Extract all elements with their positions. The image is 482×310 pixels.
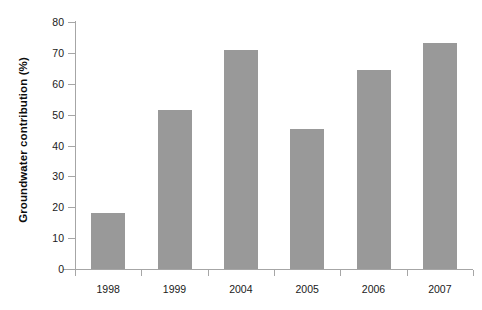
bar-chart: Groundwater contribution (%) 01020304050… <box>0 0 482 310</box>
x-axis-tick <box>407 270 408 276</box>
x-axis-tick <box>473 270 474 276</box>
x-axis-tick-label: 2004 <box>206 283 276 295</box>
y-axis-tick <box>68 269 75 270</box>
x-axis-tick-label: 2007 <box>405 283 475 295</box>
x-axis-tick-label: 2006 <box>339 283 409 295</box>
x-axis-tick <box>141 270 142 276</box>
x-axis-line <box>63 269 473 270</box>
bar <box>290 129 324 269</box>
bar <box>423 43 457 269</box>
x-axis-tick-label: 1999 <box>140 283 210 295</box>
bar <box>91 213 125 269</box>
bar <box>357 70 391 269</box>
x-axis-tick <box>274 270 275 276</box>
x-axis-tick-label: 1998 <box>73 283 143 295</box>
bar <box>158 110 192 269</box>
bar <box>224 50 258 269</box>
x-axis-tick <box>340 270 341 276</box>
x-axis-tick <box>75 270 76 276</box>
bar-series <box>0 0 482 269</box>
x-axis-tick <box>208 270 209 276</box>
x-axis-tick-label: 2005 <box>272 283 342 295</box>
